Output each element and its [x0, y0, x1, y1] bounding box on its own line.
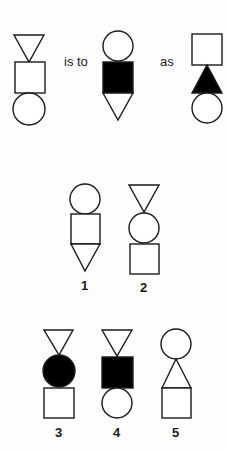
triangle-down-icon — [14, 35, 44, 62]
option-label: 3 — [55, 425, 62, 440]
option-2[interactable]: 2 — [129, 185, 159, 295]
triangle-down-icon — [103, 93, 133, 120]
option-4[interactable]: 4 — [102, 330, 133, 440]
triangle-down-icon — [44, 330, 73, 355]
square-icon — [162, 388, 191, 418]
triangle-down-icon — [71, 244, 100, 271]
figure-c — [192, 34, 222, 123]
option-label: 4 — [113, 425, 121, 440]
filled-square-icon — [102, 357, 133, 388]
circle-icon — [161, 329, 191, 359]
option-label: 2 — [140, 280, 147, 295]
filled-triangle-up-icon — [192, 65, 222, 93]
triangle-down-icon — [102, 330, 132, 356]
figure-b — [103, 31, 133, 120]
square-icon — [15, 62, 45, 93]
square-icon — [44, 388, 74, 418]
circle-icon — [13, 93, 45, 125]
option-1[interactable]: 1 — [70, 184, 100, 293]
option-3[interactable]: 3 — [43, 330, 75, 440]
circle-icon — [70, 184, 100, 214]
circle-icon — [102, 388, 132, 418]
option-5[interactable]: 5 — [161, 329, 191, 440]
analogy-puzzle: is to as 1 2 3 4 — [0, 0, 229, 452]
square-icon — [192, 34, 222, 65]
filled-circle-icon — [43, 355, 75, 387]
square-icon — [71, 214, 100, 244]
connector-is-to: is to — [64, 54, 88, 69]
circle-icon — [103, 31, 133, 61]
circle-icon — [129, 213, 159, 243]
connector-as: as — [160, 54, 174, 69]
figure-a — [13, 35, 45, 125]
circle-icon — [192, 93, 222, 123]
option-label: 5 — [172, 425, 179, 440]
option-label: 1 — [81, 278, 88, 293]
square-icon — [130, 244, 159, 274]
triangle-up-icon — [162, 359, 191, 388]
filled-square-icon — [103, 62, 133, 93]
triangle-down-icon — [129, 185, 159, 212]
